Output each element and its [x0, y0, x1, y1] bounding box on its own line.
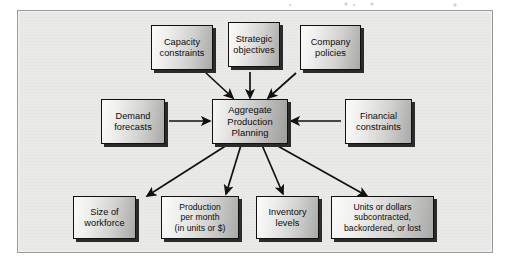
arrow-center-to-workforce: [147, 145, 227, 196]
node-strategic-objectives[interactable]: Strategic objectives: [228, 22, 280, 67]
arrow-center-to-units: [276, 145, 367, 196]
node-demand-forecasts[interactable]: Demand forecasts: [101, 99, 165, 144]
node-financial-constraints[interactable]: Financial constraints: [345, 99, 412, 144]
arrow-center-to-inventory: [262, 145, 283, 194]
arrow-capacity-to-center: [206, 73, 233, 98]
node-size-of-workforce[interactable]: Size of workforce: [73, 196, 136, 239]
arrow-center-to-production: [226, 145, 241, 194]
node-company-policies[interactable]: Company policies: [300, 25, 361, 70]
node-aggregate-production-planning[interactable]: Aggregate Production Planning: [212, 99, 288, 144]
node-units-or-dollars[interactable]: Units or dollars subcontracted, backorde…: [331, 196, 434, 239]
arrow-company-to-center: [268, 73, 296, 98]
node-capacity-constraints[interactable]: Capacity constraints: [151, 25, 213, 70]
diagram-canvas: Capacity constraints Strategic objective…: [0, 0, 510, 268]
node-production-per-month[interactable]: Production per month (in units or $): [161, 196, 239, 239]
node-inventory-levels[interactable]: Inventory levels: [256, 196, 319, 239]
